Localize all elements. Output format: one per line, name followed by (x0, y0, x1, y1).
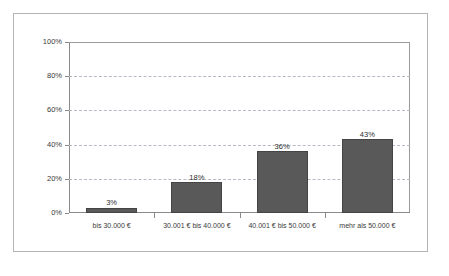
y-tick-label: 100% (43, 38, 62, 46)
x-tick-boundary (240, 213, 241, 218)
bar-value-label: 3% (106, 199, 117, 207)
y-tick-label: 0% (51, 209, 62, 217)
category-label: bis 30.000 € (93, 222, 131, 229)
bars-group: 3%18%36%43% (69, 42, 410, 213)
bar-value-label: 43% (360, 131, 375, 139)
bar-value-label: 36% (275, 143, 290, 151)
y-tick-label: 40% (47, 141, 62, 149)
bar: 36% (257, 151, 308, 213)
bar: 18% (171, 182, 222, 213)
bar: 43% (342, 139, 393, 213)
category-label: 30.001 € bis 40.000 € (163, 222, 230, 229)
bar-chart: 0%20%40%60%80%100% 3%18%36%43% bis 30.00… (69, 42, 410, 213)
bar-value-label: 18% (189, 174, 204, 182)
chart-screenshot: 0%20%40%60%80%100% 3%18%36%43% bis 30.00… (0, 0, 449, 276)
category-label: mehr als 50.000 € (339, 222, 395, 229)
y-tick-label: 20% (47, 175, 62, 183)
y-tick-0 (65, 213, 69, 214)
y-tick-label: 60% (47, 107, 62, 115)
bar: 3% (86, 208, 137, 213)
x-tick-boundary (154, 213, 155, 218)
category-label: 40.001 € bis 50.000 € (248, 222, 315, 229)
y-tick-label: 80% (47, 72, 62, 80)
x-tick-boundary (325, 213, 326, 218)
